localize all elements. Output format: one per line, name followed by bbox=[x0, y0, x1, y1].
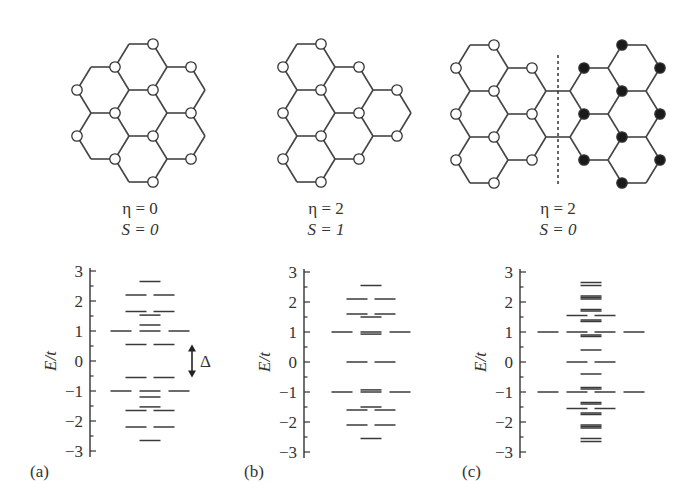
y-tick-label: 2 bbox=[289, 293, 298, 312]
lattice-diagrams: −3−2−10123E/tΔ −3−2−10123E/t −3−2−10123E… bbox=[0, 0, 696, 504]
open-site-icon bbox=[527, 109, 537, 119]
filled-site-icon bbox=[579, 109, 589, 119]
y-tick-label: −3 bbox=[279, 443, 297, 462]
open-site-icon bbox=[316, 177, 326, 187]
lattice-b bbox=[278, 39, 411, 187]
filled-site-icon bbox=[617, 86, 627, 96]
spin-label-a: S = 0 bbox=[100, 219, 180, 240]
y-tick-label: −3 bbox=[65, 442, 83, 461]
open-site-icon bbox=[186, 62, 196, 72]
y-tick-label: 3 bbox=[75, 262, 84, 281]
open-site-icon bbox=[72, 85, 82, 95]
open-site-icon bbox=[392, 85, 402, 95]
open-site-icon bbox=[354, 62, 364, 72]
eta-label-a: η = 0 bbox=[100, 198, 180, 219]
y-tick-label: 3 bbox=[505, 263, 514, 282]
panel-label-c: (c) bbox=[462, 462, 481, 482]
y-tick-label: 0 bbox=[505, 353, 514, 372]
y-tick-label: 0 bbox=[75, 352, 84, 371]
arrow-down-icon bbox=[188, 371, 196, 378]
filled-site-icon bbox=[617, 178, 627, 188]
caption-a: η = 0 S = 0 bbox=[100, 198, 180, 240]
lattice-a bbox=[72, 39, 205, 187]
open-site-icon bbox=[316, 39, 326, 49]
open-site-icon bbox=[186, 154, 196, 164]
panel-label-a: (a) bbox=[30, 462, 49, 482]
energy-chart-c: −3−2−10123E/t bbox=[471, 263, 645, 462]
open-site-icon bbox=[110, 62, 120, 72]
y-tick-label: −2 bbox=[65, 412, 83, 431]
y-tick-label: 3 bbox=[289, 263, 298, 282]
y-tick-label: −1 bbox=[65, 382, 83, 401]
y-tick-label: −2 bbox=[279, 413, 297, 432]
open-site-icon bbox=[354, 108, 364, 118]
filled-site-icon bbox=[617, 40, 627, 50]
open-site-icon bbox=[148, 39, 158, 49]
open-site-icon bbox=[278, 154, 288, 164]
open-site-icon bbox=[186, 108, 196, 118]
y-tick-label: −2 bbox=[495, 413, 513, 432]
y-tick-label: 2 bbox=[505, 293, 514, 312]
panel-label-b: (b) bbox=[244, 462, 264, 482]
open-site-icon bbox=[451, 109, 461, 119]
open-site-icon bbox=[148, 131, 158, 141]
filled-site-icon bbox=[579, 63, 589, 73]
y-axis-label: E/t bbox=[255, 351, 274, 373]
open-site-icon bbox=[489, 40, 499, 50]
eta-label-c: η = 2 bbox=[518, 198, 598, 219]
y-axis-label: E/t bbox=[471, 351, 490, 373]
filled-site-icon bbox=[655, 63, 665, 73]
energy-chart-a: −3−2−10123E/tΔ bbox=[41, 262, 211, 461]
y-tick-label: −1 bbox=[279, 383, 297, 402]
open-site-icon bbox=[110, 154, 120, 164]
open-site-icon bbox=[451, 155, 461, 165]
y-tick-label: 0 bbox=[289, 353, 298, 372]
filled-site-icon bbox=[655, 109, 665, 119]
open-site-icon bbox=[148, 177, 158, 187]
open-site-icon bbox=[110, 108, 120, 118]
open-site-icon bbox=[489, 178, 499, 188]
open-site-icon bbox=[354, 154, 364, 164]
open-site-icon bbox=[316, 85, 326, 95]
y-tick-label: 1 bbox=[289, 323, 298, 342]
open-site-icon bbox=[392, 131, 402, 141]
open-site-icon bbox=[278, 62, 288, 72]
filled-site-icon bbox=[655, 155, 665, 165]
open-site-icon bbox=[148, 85, 158, 95]
y-axis-label: E/t bbox=[41, 350, 60, 372]
filled-site-icon bbox=[617, 132, 627, 142]
arrow-up-icon bbox=[188, 345, 196, 352]
y-tick-label: 1 bbox=[75, 322, 84, 341]
open-site-icon bbox=[527, 155, 537, 165]
y-tick-label: 2 bbox=[75, 292, 84, 311]
open-site-icon bbox=[278, 108, 288, 118]
open-site-icon bbox=[489, 132, 499, 142]
caption-b: η = 2 S = 1 bbox=[286, 198, 366, 240]
open-site-icon bbox=[527, 63, 537, 73]
y-tick-label: −3 bbox=[495, 443, 513, 462]
y-tick-label: 1 bbox=[505, 323, 514, 342]
open-site-icon bbox=[489, 86, 499, 96]
energy-chart-b: −3−2−10123E/t bbox=[255, 263, 411, 462]
spin-label-c: S = 0 bbox=[518, 219, 598, 240]
open-site-icon bbox=[316, 131, 326, 141]
spin-label-b: S = 1 bbox=[286, 219, 366, 240]
lattice-c bbox=[451, 40, 665, 188]
open-site-icon bbox=[72, 131, 82, 141]
figure: −3−2−10123E/tΔ −3−2−10123E/t −3−2−10123E… bbox=[0, 0, 696, 504]
y-tick-label: −1 bbox=[495, 383, 513, 402]
filled-site-icon bbox=[579, 155, 589, 165]
caption-c: η = 2 S = 0 bbox=[518, 198, 598, 240]
open-site-icon bbox=[451, 63, 461, 73]
eta-label-b: η = 2 bbox=[286, 198, 366, 219]
gap-label: Δ bbox=[200, 352, 211, 371]
